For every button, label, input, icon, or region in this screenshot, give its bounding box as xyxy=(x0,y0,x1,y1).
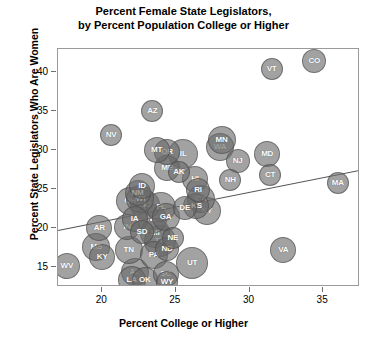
chart-title: Percent Female State Legislators, by Per… xyxy=(0,4,367,32)
y-tick-mark xyxy=(51,188,56,189)
x-tick-label: 35 xyxy=(317,294,328,305)
bubble-label: MN xyxy=(215,136,227,144)
y-tick-mark xyxy=(51,266,56,267)
data-bubble-wv[interactable]: WV xyxy=(57,253,80,279)
bubble-label: NV xyxy=(106,131,117,139)
x-axis-label: Percent College or Higher xyxy=(0,317,367,329)
bubble-label: CT xyxy=(265,171,275,179)
data-bubble-mt[interactable]: MT xyxy=(144,137,170,163)
x-tick-mark xyxy=(322,287,323,292)
bubble-label: MA xyxy=(332,179,344,187)
data-bubble-ky[interactable]: KY xyxy=(89,244,115,270)
data-bubble-nh[interactable]: NH xyxy=(219,169,241,191)
bubble-label: DE xyxy=(179,204,190,212)
y-tick-mark xyxy=(51,110,56,111)
y-axis-label: Percent State Legislators Who Are Women xyxy=(28,14,40,254)
bubble-label: VT xyxy=(267,65,277,73)
x-tick-label: 30 xyxy=(243,294,254,305)
data-bubble-id[interactable]: ID xyxy=(129,173,155,199)
chart-figure: Percent Female State Legislators, by Per… xyxy=(0,0,367,342)
data-bubble-ma[interactable]: MA xyxy=(327,172,349,194)
data-bubble-ak[interactable]: AK xyxy=(168,161,190,183)
data-bubble-va[interactable]: VA xyxy=(270,237,296,263)
y-tick-label: 15 xyxy=(37,261,48,272)
bubble-label: AK xyxy=(173,168,184,176)
bubble-label: OK xyxy=(139,276,151,284)
bubble-label: WV xyxy=(61,262,74,270)
bubble-label: ID xyxy=(138,182,146,190)
bubble-label: CO xyxy=(309,57,321,65)
chart-title-line-2: by Percent Population College or Higher xyxy=(0,18,367,32)
bubble-label: AZ xyxy=(147,107,157,115)
x-tick-label: 25 xyxy=(169,294,180,305)
data-bubble-mn[interactable]: MN xyxy=(208,126,236,154)
data-bubble-nv[interactable]: NV xyxy=(100,124,122,146)
bubble-label: NJ xyxy=(233,157,243,165)
bubble-label: IL xyxy=(180,150,187,158)
plot-area: TXUTMINCMOFLILMSALLATNPAGAOHWINYCAWAMNWV… xyxy=(57,48,359,286)
bubble-label: KY xyxy=(97,253,108,261)
x-tick-mark xyxy=(101,287,102,292)
bubble-label: RI xyxy=(194,186,202,194)
data-bubble-ri[interactable]: RI xyxy=(186,178,210,202)
data-bubble-ne[interactable]: NE xyxy=(162,227,184,249)
x-tick-label: 20 xyxy=(96,294,107,305)
data-bubble-ct[interactable]: CT xyxy=(259,164,281,186)
bubble-label: WY xyxy=(161,278,174,286)
bubble-label: VA xyxy=(278,246,288,254)
x-tick-mark xyxy=(175,287,176,292)
data-bubble-ut[interactable]: UT xyxy=(176,247,208,279)
data-bubble-az[interactable]: AZ xyxy=(141,100,163,122)
bubble-label: TN xyxy=(124,246,134,254)
y-tick-mark xyxy=(51,71,56,72)
y-tick-mark xyxy=(51,149,56,150)
y-tick-mark xyxy=(51,227,56,228)
x-tick-mark xyxy=(249,287,250,292)
bubble-label: MT xyxy=(151,146,162,154)
data-bubble-ar[interactable]: AR xyxy=(86,215,112,241)
bubble-label: AR xyxy=(94,224,105,232)
bubble-label: GA xyxy=(160,213,172,221)
bubble-label: NH xyxy=(225,176,236,184)
bubble-label: MD xyxy=(261,150,273,158)
chart-title-line-1: Percent Female State Legislators, xyxy=(95,5,271,17)
bubble-label: UT xyxy=(187,259,197,267)
data-bubble-md[interactable]: MD xyxy=(254,141,280,167)
bubble-label: SD xyxy=(137,228,148,236)
data-bubble-co[interactable]: CO xyxy=(302,49,326,73)
bubble-label: NE xyxy=(168,234,179,242)
data-bubble-vt[interactable]: VT xyxy=(261,58,283,80)
